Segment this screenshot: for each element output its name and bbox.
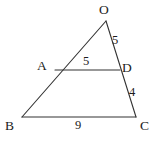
vertex-label-B: B [5,119,14,132]
vertex-label-C: C [140,119,149,132]
measure-label-od: 5 [112,34,118,47]
measure-label-bc: 9 [75,119,81,132]
vertex-label-A: A [37,59,47,72]
geometry-figure: O A D B C 5 5 4 9 [0,0,159,142]
measure-label-ad: 5 [83,55,89,68]
vertex-label-D: D [122,61,132,74]
measure-label-dc: 4 [129,86,135,99]
segment-OB [22,21,106,117]
vertex-label-O: O [99,3,109,16]
